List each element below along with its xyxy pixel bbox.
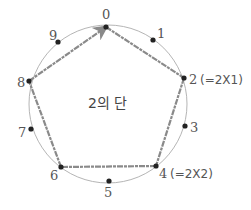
point-dot-5 — [106, 178, 111, 183]
point-label-8: 8 — [17, 75, 25, 90]
edge-4-to-6 — [61, 166, 156, 167]
point-label-3: 3 — [190, 120, 198, 135]
point-dot-7 — [28, 126, 33, 131]
annotation-point-4: (=2X2) — [170, 167, 213, 181]
diagram-title: 2의 단 — [88, 95, 127, 111]
point-label-6: 6 — [50, 168, 58, 183]
point-dot-4 — [153, 163, 158, 168]
point-label-2: 2 — [189, 72, 197, 87]
annotation-point-2: (=2X1) — [200, 73, 243, 87]
edge-6-to-8 — [29, 81, 61, 167]
point-dot-0 — [103, 24, 108, 29]
point-label-0: 0 — [102, 7, 110, 22]
edge-8-to-0 — [29, 27, 106, 81]
multiplication-circle-diagram: 0123456789 (=2X1)(=2X2) 2의 단 — [0, 0, 251, 210]
point-dot-8 — [26, 78, 31, 83]
point-label-4: 4 — [159, 166, 167, 181]
point-dot-6 — [58, 164, 63, 169]
point-label-1: 1 — [157, 26, 165, 41]
point-label-5: 5 — [104, 185, 112, 200]
point-dot-3 — [182, 123, 187, 128]
point-label-9: 9 — [49, 28, 57, 43]
point-dot-1 — [150, 37, 155, 42]
point-dot-2 — [181, 75, 186, 80]
point-label-7: 7 — [18, 125, 26, 140]
